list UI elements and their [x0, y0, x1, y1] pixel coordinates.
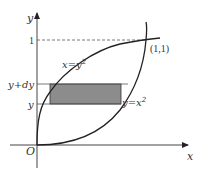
diagram-canvas: y x O 1 (1,1) y+dy y x=y2 y=x2	[0, 0, 206, 182]
shaded-strip	[50, 84, 121, 104]
curve-label-x-eq-y2: x=y2	[62, 58, 87, 70]
curve-label-y-eq-x2: y=x2	[121, 96, 147, 108]
x-axis-label: x	[187, 150, 194, 163]
y-axis-label: y	[26, 12, 34, 25]
intersection-label: (1,1)	[150, 43, 169, 55]
strip-upper-label: y+dy	[7, 79, 34, 90]
curve-y-equals-x-squared	[37, 22, 147, 145]
strip-lower-label: y	[27, 99, 34, 110]
origin-label: O	[26, 145, 35, 158]
y-tick-one-label: 1	[29, 35, 34, 46]
